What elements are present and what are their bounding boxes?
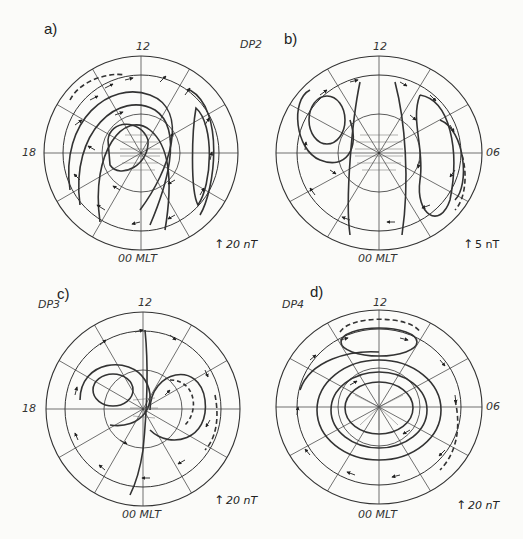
- panel-b-letter: b): [284, 30, 297, 47]
- panel-b-type-label: DP2: [240, 38, 262, 51]
- panel-b-dawn-label: 06: [486, 146, 500, 159]
- panel-b-scale: ↑5 nT: [463, 237, 499, 251]
- panel-c-midnight-label: 00 MLT: [122, 508, 161, 521]
- scale-arrow-icon: ↑: [214, 493, 224, 507]
- panel-d-type-label: DP4: [282, 298, 304, 311]
- polar-plots: [0, 0, 523, 539]
- panel-d-scale: ↑20 nT: [456, 498, 499, 512]
- panel-b-noon-label: 12: [373, 40, 387, 53]
- panel-c-dusk-label: 18: [22, 402, 36, 415]
- scale-arrow-icon: ↑: [456, 498, 466, 512]
- panel-d-noon-label: 12: [373, 296, 387, 309]
- panel-c-type-label: DP3: [38, 298, 60, 311]
- panel-c-plot: [46, 312, 240, 506]
- scale-arrow-icon: ↑: [463, 237, 473, 251]
- panel-d-dawn-label: 06: [486, 400, 500, 413]
- scale-arrow-icon: ↑: [214, 237, 224, 251]
- panel-c-scale: ↑20 nT: [214, 493, 257, 507]
- panel-a-dusk-label: 18: [22, 146, 36, 159]
- panel-c-noon-label: 12: [138, 296, 152, 309]
- panel-a-plot: [44, 56, 238, 250]
- panel-a-scale: ↑20 nT: [214, 237, 257, 251]
- panel-b-plot: [276, 56, 482, 250]
- panel-b-midnight-label: 00 MLT: [358, 252, 397, 265]
- panel-d-letter: d): [310, 283, 323, 300]
- panel-a-noon-label: 12: [136, 40, 150, 53]
- panel-d-plot: [276, 310, 482, 504]
- panel-a-letter: a): [44, 20, 57, 37]
- panel-d-midnight-label: 00 MLT: [358, 508, 397, 521]
- panel-a-midnight-label: 00 MLT: [118, 252, 157, 265]
